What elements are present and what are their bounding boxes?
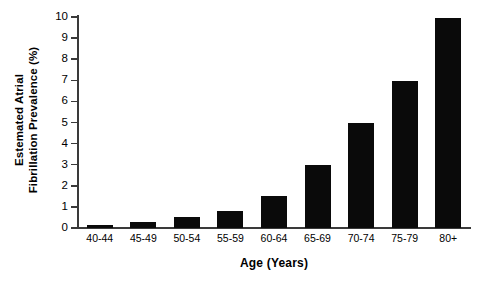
y-axis-tick bbox=[71, 143, 78, 145]
y-axis-tick-label: 2 bbox=[50, 180, 68, 191]
y-axis-tick bbox=[71, 122, 78, 124]
y-axis-tick-label: 5 bbox=[50, 117, 68, 128]
y-axis-tick bbox=[71, 16, 78, 18]
bar bbox=[130, 222, 156, 228]
y-axis-tick-label: 10 bbox=[50, 11, 68, 22]
y-axis-title-line-2: Fibrillation Prevalence (%) bbox=[26, 47, 40, 194]
bar bbox=[305, 165, 331, 228]
y-axis-tick bbox=[71, 101, 78, 103]
y-axis-tick-label: 7 bbox=[50, 74, 68, 85]
bar bbox=[261, 196, 287, 228]
y-axis-tick bbox=[71, 37, 78, 39]
x-axis-title: Age (Years) bbox=[78, 256, 470, 270]
bar bbox=[87, 225, 113, 228]
y-axis-tick bbox=[71, 164, 78, 166]
y-axis-title: Estemated Atrial Fibrillation Prevalence… bbox=[0, 0, 52, 240]
y-axis-tick bbox=[71, 185, 78, 187]
y-axis-tick-label: 9 bbox=[50, 32, 68, 43]
plot-area bbox=[78, 17, 470, 228]
y-axis-tick bbox=[71, 80, 78, 82]
x-axis-tick-label: 80+ bbox=[418, 232, 478, 244]
bar bbox=[217, 211, 243, 228]
y-axis-tick bbox=[71, 206, 78, 208]
y-axis-tick-label: 4 bbox=[50, 138, 68, 149]
bar bbox=[174, 217, 200, 228]
bar bbox=[348, 123, 374, 229]
y-axis-tick-label: 8 bbox=[50, 53, 68, 64]
y-axis-title-line-1: Estemated Atrial bbox=[12, 47, 26, 194]
y-axis-tick-label: 6 bbox=[50, 95, 68, 106]
y-axis-tick-label: 0 bbox=[50, 222, 68, 233]
y-axis-tick-label: 3 bbox=[50, 159, 68, 170]
chart-figure: Estemated Atrial Fibrillation Prevalence… bbox=[0, 0, 482, 285]
bar bbox=[435, 18, 461, 228]
y-axis-tick bbox=[71, 227, 78, 229]
y-axis-tick-label: 1 bbox=[50, 201, 68, 212]
bar bbox=[392, 81, 418, 228]
y-axis-tick bbox=[71, 58, 78, 60]
